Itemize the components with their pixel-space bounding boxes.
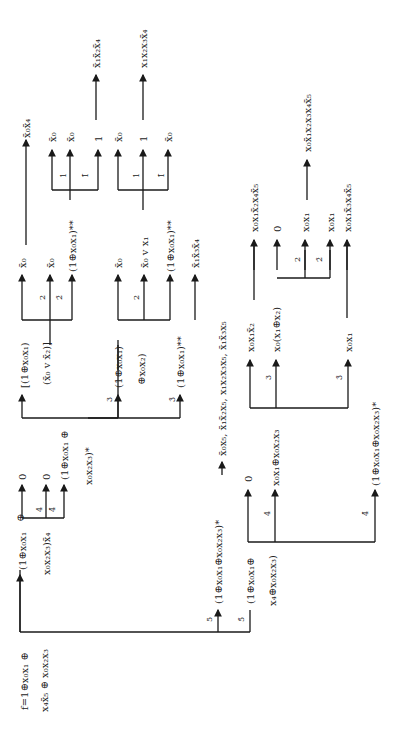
- svg-text:3: 3: [105, 397, 114, 402]
- svg-text:x₀x₁⊕x₀x₂x₃: x₀x₁⊕x₀x₂x₃: [270, 429, 281, 486]
- svg-text:x₀x₂x₃)x̄₄: x₀x₂x₃)x̄₄: [41, 533, 52, 576]
- svg-text:(1⊕x₀x₁): (1⊕x₀x₁): [113, 346, 124, 388]
- svg-text:x̄₀: x̄₀: [65, 132, 76, 142]
- svg-text:2̄: 2̄: [315, 257, 324, 262]
- svg-text:3̄: 3̄: [168, 397, 177, 402]
- root-label: f=1⊕x₀x₁ ⊕ x₄x̄₅ ⊕ x₀x₂x₃: [19, 649, 50, 712]
- svg-text:x̄₀: x̄₀: [47, 132, 58, 142]
- svg-text:x₀x₁x̄₃x₄x̄₅: x₀x₁x̄₃x₄x̄₅: [342, 184, 353, 232]
- svg-text:(1⊕x₀x₁)**: (1⊕x₀x₁)**: [175, 336, 186, 388]
- branch-4-upper: 4 4̄ 0 0 (1⊕x₀x₁ ⊕ x₀x₂x₃)*: [17, 431, 94, 519]
- svg-text:(x̄₀ v x̄₂)]: (x̄₀ v x̄₂)]: [41, 342, 52, 385]
- svg-text:0: 0: [243, 476, 254, 482]
- svg-text:x₀x₁: x₀x₁: [343, 333, 354, 352]
- svg-text:5̄: 5̄: [237, 617, 246, 622]
- svg-text:x₄x̄₅ ⊕ x₀x₂x₃: x₄x̄₅ ⊕ x₀x₂x₃: [39, 649, 50, 712]
- svg-text:x₁x₂x₃x̄₄: x₁x₂x₃x̄₄: [138, 29, 149, 68]
- svg-text:5: 5: [205, 617, 214, 622]
- svg-text:x̄₁x̄₂x̄₄: x̄₁x̄₂x̄₄: [91, 39, 102, 68]
- svg-text:x̄₀: x̄₀: [113, 258, 124, 268]
- branch-5: 5 (1⊕x₀x₁⊕x₀x₂x₃)* x̄₀x₅, x̄₁x̄₂x₅, x₁x₂…: [205, 321, 228, 632]
- svg-text:2: 2: [38, 295, 47, 300]
- svg-text:x₀x₁: x₀x₁: [300, 213, 311, 232]
- svg-text:2: 2: [132, 295, 141, 300]
- svg-text:2̄: 2̄: [55, 295, 64, 300]
- svg-text:1: 1: [132, 173, 141, 178]
- svg-text:x̄₁x̄₃x̄₄: x̄₁x̄₃x̄₄: [190, 239, 201, 268]
- svg-text:x₀x₁x̄₂: x₀x₁x̄₂: [245, 323, 256, 352]
- svg-text:(1⊕x₀x₁ ⊕: (1⊕x₀x₁ ⊕: [59, 431, 70, 481]
- svg-text:x̄₀: x̄₀: [113, 132, 124, 142]
- branch-3-upper: 3 [(1⊕x₀x₁) (x̄₀ v x̄₂)] (1⊕x₀x₁) ⊕x₀x₂)…: [19, 336, 186, 418]
- svg-text:2: 2: [293, 257, 302, 262]
- svg-text:f=1⊕x₀x₁ ⊕: f=1⊕x₀x₁ ⊕: [19, 652, 30, 710]
- svg-text:(1⊕x₀x₁⊕: (1⊕x₀x₁⊕: [245, 558, 256, 604]
- svg-text:0: 0: [17, 474, 28, 480]
- svg-text:⊕x₀x₂): ⊕x₀x₂): [136, 353, 147, 385]
- svg-text:3: 3: [264, 375, 273, 380]
- svg-text:0: 0: [272, 226, 283, 232]
- svg-text:4̄: 4̄: [361, 511, 370, 516]
- svg-text:x̄₀ v x₁: x̄₀ v x₁: [139, 237, 150, 268]
- svg-text:(1⊕x₀x₁)**: (1⊕x₀x₁)**: [67, 220, 78, 272]
- svg-text:1: 1: [138, 136, 149, 142]
- svg-text:4: 4: [35, 507, 44, 512]
- svg-text:x̄₀: x̄₀: [17, 258, 28, 268]
- top-right: x̄₀x̄₄ 1 1̄ x̄₀ x̄₀ 1 x̄₁x̄₂x̄₄: [21, 39, 104, 245]
- svg-text:1: 1: [59, 173, 68, 178]
- svg-text:x̄₀x₅, x̄₁x̄₂x₅, x₁x₂x₃x₅, x̄₁: x̄₀x₅, x̄₁x̄₂x₅, x₁x₂x₃x₅, x̄₁x̄₃x₅: [217, 321, 228, 456]
- svg-text:x₀x̄₁x₂x₃x₄x̄₅: x₀x̄₁x₂x₃x₄x̄₅: [302, 94, 313, 152]
- svg-text:(1⊕x₀x₁: (1⊕x₀x₁: [17, 532, 28, 570]
- branch-5bar: 5̄ (1⊕x₀x₁⊕ x₄⊕x₀x₂x₃) 4 4̄ 0 x₀x₁⊕x₀x₂x…: [237, 402, 381, 632]
- svg-text:3̄: 3̄: [335, 375, 344, 380]
- svg-text:4: 4: [263, 511, 272, 516]
- svg-text:x₀x₂x₃)*: x₀x₂x₃)*: [83, 447, 94, 485]
- svg-text:0: 0: [41, 474, 52, 480]
- svg-text:x̄₀: x̄₀: [45, 258, 56, 268]
- bottom-right-outputs: x₀x₁x̄₂x₄x̄₅ 0 x₀x₁ x₀x₁ x₀x₁x̄₃x₄x̄₅ x₀…: [249, 94, 353, 270]
- svg-text:x₀x₁: x₀x₁: [325, 213, 336, 232]
- svg-text:(1⊕x₀x₁⊕x₀x₂x₃)*: (1⊕x₀x₁⊕x₀x₂x₃)*: [213, 520, 224, 604]
- middle-right: 2 x̄₀ x̄₀ v x₁ (1⊕x₀x₁)** x̄₁x̄₃x̄₄ 1 1̄…: [113, 29, 201, 320]
- svg-text:1̄: 1̄: [157, 173, 166, 178]
- svg-text:x₀(x₁⊕x₂): x₀(x₁⊕x₂): [271, 307, 282, 352]
- svg-text:x̄₀x̄₄: x̄₀x̄₄: [21, 119, 32, 138]
- subtree-3: 3 3̄ x₀x₁x̄₂ x₀(x₁⊕x₂) x₀x₁ 2 2̄: [245, 240, 354, 408]
- upper-node: (1⊕x₀x₁ x₀x₂x₃)x̄₄ ⊕: [15, 514, 52, 575]
- svg-text:x̄₀: x̄₀: [163, 132, 174, 142]
- svg-text:x₀x₁x̄₂x₄x̄₅: x₀x₁x̄₂x₄x̄₅: [249, 184, 260, 232]
- svg-text:(1⊕x₀x₁⊕x₀x₂x₃)*: (1⊕x₀x₁⊕x₀x₂x₃)*: [370, 402, 381, 486]
- svg-text:(1⊕x₀x₁)**: (1⊕x₀x₁)**: [165, 220, 176, 272]
- decision-tree-diagram: f=1⊕x₀x₁ ⊕ x₄x̄₅ ⊕ x₀x₂x₃ (1⊕x₀x₁ x₀x₂x₃…: [0, 0, 410, 732]
- svg-text:1: 1: [93, 136, 104, 142]
- svg-text:4̄: 4̄: [48, 507, 57, 512]
- svg-text:1̄: 1̄: [81, 173, 90, 178]
- svg-text:x₄⊕x₀x₂x₃): x₄⊕x₀x₂x₃): [267, 555, 278, 606]
- svg-text:[(1⊕x₀x₁): [(1⊕x₀x₁): [19, 342, 30, 388]
